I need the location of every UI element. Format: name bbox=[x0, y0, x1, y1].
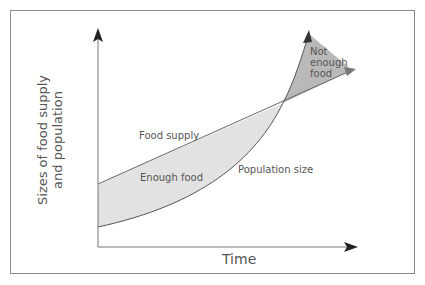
population-size-label: Population size bbox=[238, 164, 313, 175]
y-axis-label: Sizes of food supply and population bbox=[35, 60, 65, 220]
not-enough-line3: food bbox=[310, 68, 348, 79]
y-axis-label-line2: and population bbox=[50, 60, 65, 220]
enough-food-label: Enough food bbox=[140, 172, 203, 183]
not-enough-line2: enough bbox=[310, 57, 348, 68]
y-axis-label-line1: Sizes of food supply bbox=[35, 60, 50, 220]
food-supply-label: Food supply bbox=[139, 130, 199, 141]
x-axis-label: Time bbox=[222, 251, 256, 267]
not-enough-food-label: Not enough food bbox=[310, 46, 348, 79]
not-enough-line1: Not bbox=[310, 46, 348, 57]
